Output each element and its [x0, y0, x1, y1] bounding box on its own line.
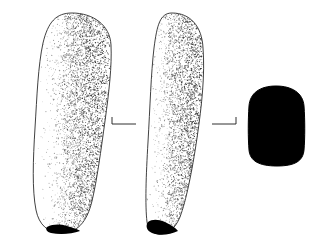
illustration-canvas: [0, 0, 325, 250]
artifact-view-cross-section: [248, 86, 305, 166]
artifact-cross-section-body: [248, 86, 305, 166]
artifact-illustration-figure: Ground stone celt illustration: [0, 0, 325, 250]
